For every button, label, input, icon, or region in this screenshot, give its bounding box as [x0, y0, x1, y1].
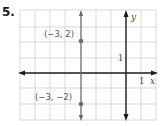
coordinate-graph: (−3, 2) (−3, −2) 1 1 y x [0, 0, 163, 126]
x-axis [18, 71, 158, 76]
x-tick-label: 1 [139, 76, 144, 86]
point-label-neg3-2: (−3, 2) [44, 29, 74, 39]
point-label-neg3-neg2: (−3, −2) [35, 92, 72, 102]
point-neg3-2 [79, 39, 84, 44]
x-axis-right-arrow-icon [151, 71, 158, 76]
line-up-arrow-icon [79, 10, 83, 16]
grid [20, 10, 156, 120]
y-axis-up-arrow-icon [124, 10, 129, 17]
point-neg3-neg2 [79, 102, 84, 107]
x-axis-label: x [150, 76, 155, 86]
x-axis-left-arrow-icon [18, 71, 25, 76]
y-axis-label: y [130, 12, 137, 22]
y-tick-label: 1 [118, 53, 123, 63]
